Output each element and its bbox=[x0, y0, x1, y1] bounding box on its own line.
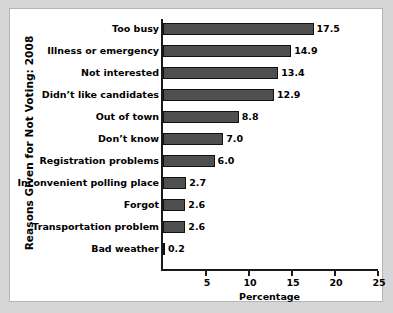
x-tick-label: 15 bbox=[278, 277, 308, 288]
bar bbox=[163, 45, 291, 57]
bar bbox=[163, 177, 186, 189]
bar-category-label: Didn’t like candidates bbox=[9, 89, 159, 101]
bar-value-label: 12.9 bbox=[277, 89, 300, 101]
bar-category-label: Out of town bbox=[9, 111, 159, 123]
bar bbox=[163, 111, 239, 123]
bar-value-label: 7.0 bbox=[226, 133, 243, 145]
bar-value-label: 8.8 bbox=[242, 111, 259, 123]
bar-category-label: Registration problems bbox=[9, 155, 159, 167]
x-tick-mark bbox=[248, 271, 250, 276]
bar-category-label: Forgot bbox=[9, 199, 159, 211]
plot-area: Too busy17.5Illness or emergency14.9Not … bbox=[34, 15, 378, 297]
bar-value-label: 2.6 bbox=[188, 221, 205, 233]
bar-category-label: Inconvenient polling place bbox=[9, 177, 159, 189]
bar bbox=[163, 67, 278, 79]
x-axis-label: Percentage bbox=[161, 291, 378, 302]
bar bbox=[163, 243, 165, 255]
bar-row: Bad weather0.2 bbox=[34, 239, 378, 261]
bar-row: Not interested13.4 bbox=[34, 63, 378, 85]
bar-category-label: Transportation problem bbox=[9, 221, 159, 233]
bar-row: Out of town8.8 bbox=[34, 107, 378, 129]
bar bbox=[163, 155, 215, 167]
x-axis-line bbox=[161, 269, 378, 271]
bar bbox=[163, 221, 185, 233]
bar-value-label: 0.2 bbox=[168, 243, 185, 255]
x-tick-mark bbox=[334, 271, 336, 276]
bar-row: Illness or emergency14.9 bbox=[34, 41, 378, 63]
bar-row: Too busy17.5 bbox=[34, 19, 378, 41]
bar-value-label: 2.7 bbox=[189, 177, 206, 189]
x-tick-mark bbox=[205, 271, 207, 276]
bar-category-label: Don’t know bbox=[9, 133, 159, 145]
bar bbox=[163, 23, 314, 35]
x-tick-label: 5 bbox=[192, 277, 222, 288]
chart-panel: Reasons Given for Not Voting: 2008 Too b… bbox=[9, 8, 383, 302]
bar-category-label: Too busy bbox=[9, 23, 159, 35]
bar-row: Transportation problem2.6 bbox=[34, 217, 378, 239]
bar-category-label: Illness or emergency bbox=[9, 45, 159, 57]
x-tick-label: 10 bbox=[235, 277, 265, 288]
bar-row: Didn’t like candidates12.9 bbox=[34, 85, 378, 107]
bar-category-label: Bad weather bbox=[9, 243, 159, 255]
bar bbox=[163, 89, 274, 101]
x-tick-mark bbox=[291, 271, 293, 276]
bar bbox=[163, 199, 185, 211]
bar-value-label: 17.5 bbox=[317, 23, 340, 35]
bar-value-label: 2.6 bbox=[188, 199, 205, 211]
x-tick-label: 25 bbox=[364, 277, 393, 288]
bar-category-label: Not interested bbox=[9, 67, 159, 79]
chart-figure: Reasons Given for Not Voting: 2008 Too b… bbox=[0, 0, 393, 313]
bar-value-label: 6.0 bbox=[218, 155, 235, 167]
bar-row: Inconvenient polling place2.7 bbox=[34, 173, 378, 195]
bar-value-label: 14.9 bbox=[294, 45, 317, 57]
bar-row: Don’t know7.0 bbox=[34, 129, 378, 151]
bar-row: Registration problems6.0 bbox=[34, 151, 378, 173]
bar-value-label: 13.4 bbox=[281, 67, 304, 79]
x-tick-label: 20 bbox=[321, 277, 351, 288]
x-tick-mark bbox=[377, 271, 379, 276]
bar bbox=[163, 133, 223, 145]
bar-row: Forgot2.6 bbox=[34, 195, 378, 217]
